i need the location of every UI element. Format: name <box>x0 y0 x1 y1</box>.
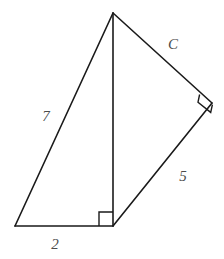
geometry-figure: 7 2 5 C <box>0 0 224 259</box>
side-label-5: 5 <box>179 169 187 184</box>
figure-canvas <box>0 0 224 259</box>
side-label-c: C <box>168 37 178 52</box>
side-label-7: 7 <box>42 109 50 124</box>
side-label-2: 2 <box>51 237 59 252</box>
